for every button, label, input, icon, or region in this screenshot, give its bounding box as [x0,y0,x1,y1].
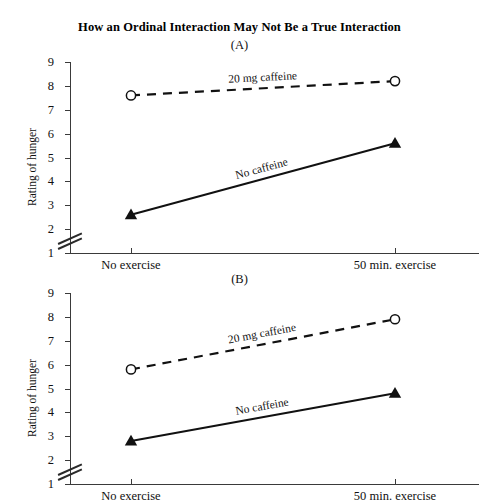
series-layer-b [0,0,479,503]
figure-root: How an Ordinal Interaction May Not Be a … [0,0,479,503]
data-point-b-0-0 [126,365,135,374]
data-point-b-1-1 [389,387,401,398]
data-point-b-0-1 [390,315,399,324]
